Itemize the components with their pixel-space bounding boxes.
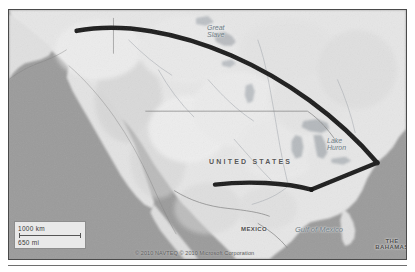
- map-scale-bar: 1000 km 650 mi: [14, 221, 86, 249]
- map-attribution: © 2010 NAVTEQ © 2010 Microsoft Corporati…: [135, 250, 254, 256]
- screenshot-root: Great Slave Lake Huron UNITED STATES MEX…: [0, 0, 415, 272]
- scale-metric-label: 1000 km: [18, 224, 82, 233]
- map-viewport[interactable]: Great Slave Lake Huron UNITED STATES MEX…: [8, 9, 407, 260]
- scale-imperial-label: 650 mi: [18, 238, 82, 247]
- footer-divider: [8, 265, 407, 266]
- scale-ruler-graphic: [18, 233, 82, 238]
